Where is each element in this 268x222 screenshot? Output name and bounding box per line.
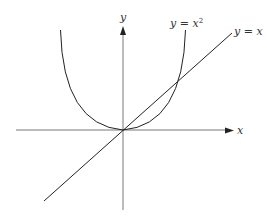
y-axis-label: y xyxy=(119,11,127,24)
y-axis-arrow-icon xyxy=(120,26,126,35)
graph-diagram: y x y = x2 y = x xyxy=(0,0,268,222)
x-axis-label: x xyxy=(237,124,244,137)
line-label: y = x xyxy=(233,25,263,38)
x-axis-arrow-icon xyxy=(225,128,234,134)
identity-line xyxy=(44,33,232,201)
parabola-label: y = x2 xyxy=(169,17,203,30)
parabola-label-sup: 2 xyxy=(199,17,203,25)
parabola-label-prefix: y = xyxy=(169,17,192,30)
